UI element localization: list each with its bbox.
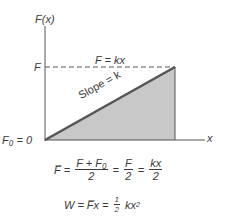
average-force-symbol: F̅ xyxy=(54,164,61,176)
fraction-numerator: F + F₀ xyxy=(75,157,107,170)
equals-sign: = xyxy=(113,164,119,176)
average-force-times-x: F̅x xyxy=(87,199,99,211)
y-axis-label: F(x) xyxy=(35,14,55,25)
fraction-denominator: 2 xyxy=(88,170,94,182)
work-equation: W = F̅x = 1 2 kx2 xyxy=(64,195,140,214)
fraction-one-half: 1 2 xyxy=(114,195,120,214)
equals-sign: = xyxy=(77,199,83,211)
exponent: 2 xyxy=(136,201,140,208)
fraction-kx: kx 2 xyxy=(149,157,162,182)
fraction-denominator: 2 xyxy=(125,170,131,182)
fraction-numerator: 1 xyxy=(114,195,120,205)
average-force-equation: F̅ = F + F₀ 2 = F 2 = kx 2 xyxy=(54,157,164,182)
origin-label: F₀ = 0 xyxy=(2,135,32,146)
kx-term: kx xyxy=(125,199,136,211)
force-level-label: F xyxy=(34,62,41,73)
line-equation-label: F = kx xyxy=(95,55,125,66)
equals-sign: = xyxy=(138,164,144,176)
fraction-sum: F + F₀ 2 xyxy=(75,157,107,182)
fraction-half-force: F 2 xyxy=(124,157,133,182)
fraction-numerator: kx xyxy=(149,157,162,170)
fraction-denominator: 2 xyxy=(153,170,159,182)
equals-sign: = xyxy=(64,164,70,176)
fraction-denominator: 2 xyxy=(115,205,119,214)
work-symbol: W xyxy=(64,199,74,211)
x-axis-label: x xyxy=(207,133,213,144)
fraction-numerator: F xyxy=(124,157,133,170)
equals-sign: = xyxy=(102,199,108,211)
force-diagram xyxy=(0,0,227,219)
